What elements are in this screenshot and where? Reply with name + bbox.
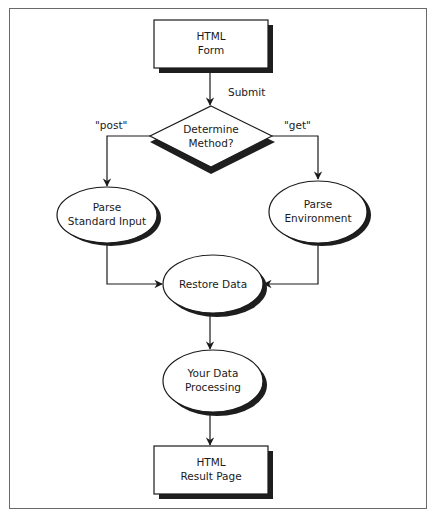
edge-env-restore: [264, 244, 318, 284]
edge-stdin-restore: [107, 243, 162, 284]
node-determine-method-line2: Method?: [189, 137, 234, 149]
node-parse-environment: Parse Environment: [269, 181, 371, 246]
edge-label-get: "get": [284, 119, 311, 131]
flowchart-svg: Submit "post" "get" HTML Form Determine …: [0, 0, 435, 516]
node-parse-env-line2: Environment: [284, 212, 351, 224]
node-determine-method: Determine Method?: [150, 106, 275, 174]
edge-post: [107, 136, 150, 186]
node-html-result-line1: HTML: [196, 456, 225, 468]
edge-label-post: "post": [95, 119, 127, 131]
node-parse-env-line1: Parse: [304, 198, 333, 210]
node-html-result-page: HTML Result Page: [154, 446, 273, 499]
node-your-data-processing: Your Data Processing: [163, 350, 267, 416]
node-parse-stdin-line1: Parse: [93, 201, 122, 213]
node-html-form: HTML Form: [154, 20, 273, 73]
edge-label-submit: Submit: [228, 86, 265, 98]
node-restore-data: Restore Data: [163, 255, 267, 317]
flowchart-canvas: Submit "post" "get" HTML Form Determine …: [0, 0, 435, 516]
node-determine-method-line1: Determine: [183, 123, 239, 135]
node-processing-line2: Processing: [185, 381, 241, 393]
node-processing-line1: Your Data: [187, 367, 239, 379]
node-html-form-line2: Form: [198, 44, 224, 56]
node-parse-stdin-line2: Standard Input: [68, 215, 146, 227]
node-parse-standard-input: Parse Standard Input: [57, 187, 161, 246]
node-restore-data-line1: Restore Data: [179, 278, 247, 290]
node-html-result-line2: Result Page: [180, 470, 241, 482]
node-html-form-line1: HTML: [196, 30, 225, 42]
edge-get: [272, 136, 318, 179]
